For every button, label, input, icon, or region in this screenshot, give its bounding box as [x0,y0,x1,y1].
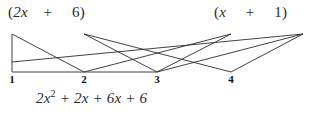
result-prefix: 2x [36,90,51,106]
term-label-4: 4 [224,73,238,85]
result-suffix: + 2x + 6x + 6 [56,90,147,106]
arc-2-to-3 [84,34,157,72]
arc-apex3-to-3 [157,34,231,72]
term-label-1: 1 [5,73,19,85]
result-expression: 2x2 + 2x + 6x + 6 [36,88,147,107]
term-label-2: 2 [77,73,91,85]
arc-1-to-apex4 [12,34,303,62]
foil-diagram-stage: (2x + 6) (x + 1) 1 2 3 4 2x2 + 2x + 6x +… [0,0,319,113]
arc-1-to-2 [12,34,84,72]
arc-3-up-to-apex4 [157,34,303,72]
term-label-3: 3 [150,73,164,85]
